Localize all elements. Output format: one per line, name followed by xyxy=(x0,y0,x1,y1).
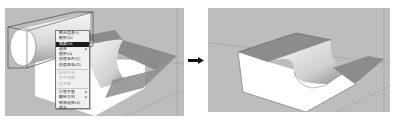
menu-item-label: 简化 xyxy=(59,106,67,110)
model-before xyxy=(5,8,184,116)
menu-separator xyxy=(57,69,88,70)
menu-item-label: 创建群组(G) xyxy=(59,63,81,67)
menu-item-label: 删除(D) xyxy=(59,36,73,40)
menu-item-label: 翻转方向 xyxy=(59,95,75,99)
menu-item-label: 交错平面 xyxy=(59,90,75,94)
right-arrow-icon xyxy=(188,57,204,64)
before-viewport[interactable] xyxy=(5,8,184,116)
menu-item-label: 面积(A) xyxy=(59,52,72,56)
menu-item-align-axes[interactable]: 对齐轴 xyxy=(56,82,89,87)
menu-item-label: 隐藏(H) xyxy=(59,42,73,46)
menu-separator xyxy=(57,88,88,89)
after-viewport[interactable] xyxy=(208,8,390,112)
context-menu: 图元信息(I) 删除(D) 隐藏(H) 选择▸ 面积(A) 创建组件(C) 创建… xyxy=(55,30,90,109)
menu-item-make-group[interactable]: 创建群组(G) xyxy=(56,63,89,68)
menu-item-label: 对齐轴 xyxy=(59,82,71,86)
menu-item-label: 反转方向 xyxy=(59,71,75,75)
model-after xyxy=(208,8,390,112)
menu-item-label: 图元信息(I) xyxy=(59,31,79,35)
menu-item-simplify[interactable]: 简化 xyxy=(56,106,89,111)
menu-item-label: 创建组件(C) xyxy=(59,57,80,61)
menu-item-label: 缩放选择(Z) xyxy=(59,101,80,105)
menu-item-label: 对齐视图 xyxy=(59,76,75,80)
menu-item-label: 选择 xyxy=(59,47,67,51)
